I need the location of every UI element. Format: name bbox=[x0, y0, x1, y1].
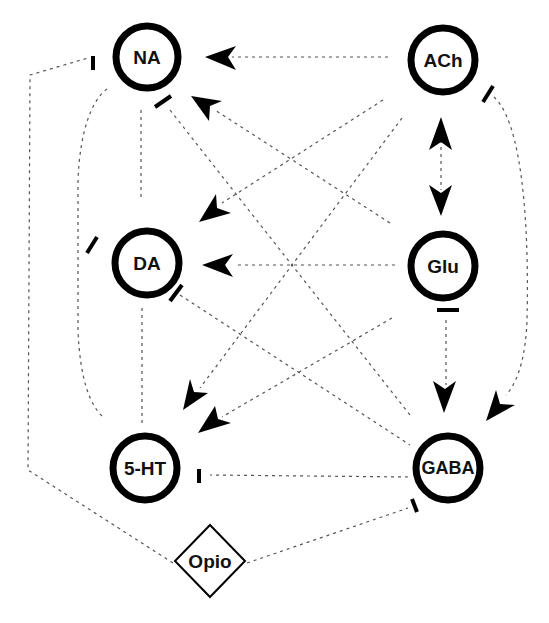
node-opio-label: Opio bbox=[188, 551, 231, 572]
inhibit-bar-ach bbox=[483, 86, 493, 102]
node-glu[interactable]: Glu bbox=[411, 234, 475, 298]
edge-glu-5ht bbox=[222, 318, 392, 417]
node-opio[interactable]: Opio bbox=[175, 525, 245, 597]
node-na[interactable]: NA bbox=[116, 26, 178, 88]
edge-na-5ht bbox=[78, 89, 107, 417]
arrowhead-icon bbox=[202, 254, 233, 277]
arrowhead-icon bbox=[183, 379, 208, 410]
arrowhead-icon bbox=[191, 96, 222, 121]
node-gaba[interactable]: GABA bbox=[416, 436, 480, 500]
arrowhead-icon bbox=[198, 406, 231, 433]
node-da-label: DA bbox=[133, 253, 161, 274]
arrowhead-icon bbox=[199, 194, 231, 222]
node-da[interactable]: DA bbox=[115, 231, 179, 295]
node-na-label: NA bbox=[133, 47, 161, 68]
edge-na-gaba bbox=[170, 110, 410, 415]
node-5ht-label: 5-HT bbox=[124, 458, 167, 479]
arrowhead-icon bbox=[433, 381, 456, 413]
inhibit-bar-gaba bbox=[412, 499, 417, 512]
edge-ach-5ht bbox=[200, 118, 402, 388]
neurotransmitter-diagram: NA ACh DA Glu 5-HT GABA Opio bbox=[0, 0, 549, 623]
node-ach-label: ACh bbox=[423, 50, 462, 71]
arrowhead-icon bbox=[429, 117, 452, 150]
node-5ht[interactable]: 5-HT bbox=[113, 436, 177, 500]
arrowhead-icon bbox=[205, 46, 236, 70]
edge-ach-da bbox=[222, 100, 383, 203]
arrowhead-icon bbox=[486, 390, 515, 421]
node-gaba-label: GABA bbox=[422, 458, 475, 478]
edge-glu-na bbox=[215, 110, 390, 223]
node-ach[interactable]: ACh bbox=[411, 28, 475, 92]
edge-gaba-5ht bbox=[210, 475, 408, 477]
edge-opio-gaba bbox=[247, 508, 408, 563]
inhibit-bar-na-bottom bbox=[155, 96, 171, 107]
edge-ach-gaba bbox=[494, 97, 527, 395]
inhibit-bar-da-left bbox=[87, 237, 97, 253]
node-glu-label: Glu bbox=[427, 256, 459, 277]
